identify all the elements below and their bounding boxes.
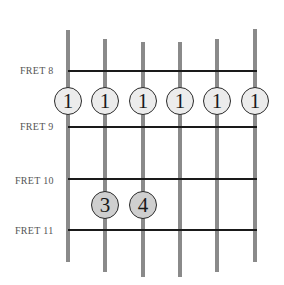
finger-dot-3: 3	[91, 191, 119, 219]
finger-dot-string-4: 1	[166, 87, 194, 115]
finger-dot-string-1: 1	[54, 87, 82, 115]
finger-dot-string-5: 1	[203, 87, 231, 115]
string-1	[66, 30, 70, 262]
string-4	[178, 42, 182, 277]
fret-line-8	[68, 70, 257, 72]
fret-line-9	[68, 126, 257, 128]
fret-line-10	[68, 178, 257, 180]
string-6	[253, 29, 257, 262]
string-3	[141, 42, 145, 277]
string-2	[103, 39, 107, 272]
fret-label-9: FRET 9	[20, 121, 54, 132]
string-5	[215, 39, 219, 272]
fret-label-8: FRET 8	[20, 65, 54, 76]
fret-label-10: FRET 10	[15, 175, 54, 186]
fret-line-11	[68, 229, 257, 231]
fret-label-11: FRET 11	[15, 225, 54, 236]
finger-dot-string-3: 1	[129, 87, 157, 115]
finger-dot-string-6: 1	[241, 87, 269, 115]
finger-dot-string-2: 1	[91, 87, 119, 115]
finger-dot-4: 4	[129, 191, 157, 219]
